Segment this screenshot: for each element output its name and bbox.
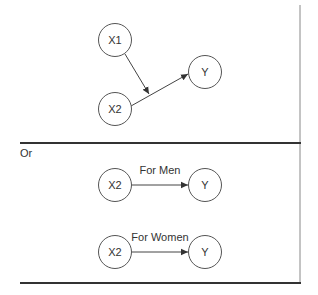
edge-label-men: For Men: [140, 164, 181, 176]
row-men: For Men X2 Y: [99, 164, 222, 202]
node-x2-women-label: X2: [108, 246, 121, 258]
node-x2-label: X2: [108, 103, 121, 115]
moderation-diagram: X1 X2 Y Or For Men X2 Y For Women X2 Y: [0, 0, 318, 295]
node-x1: X1: [99, 24, 132, 57]
edge-x1-moderator: [125, 54, 149, 94]
node-y-men-label: Y: [201, 179, 209, 191]
edge-label-women: For Women: [131, 231, 188, 243]
node-y: Y: [189, 56, 222, 89]
row-women: For Women X2 Y: [99, 231, 222, 269]
top-panel: X1 X2 Y: [99, 24, 222, 126]
node-x2: X2: [99, 93, 132, 126]
node-y-women-label: Y: [201, 246, 209, 258]
or-label: Or: [20, 147, 33, 159]
node-y-label: Y: [201, 66, 209, 78]
node-x2-men-label: X2: [108, 179, 121, 191]
node-x1-label: X1: [108, 34, 121, 46]
